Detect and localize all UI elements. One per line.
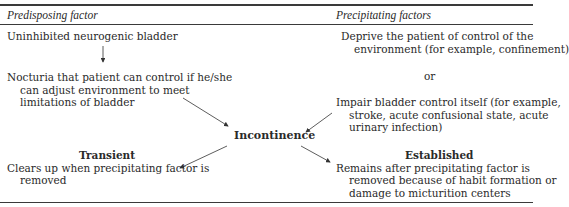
arrow-precipitating-to-incontinence xyxy=(306,113,332,132)
arrow-incontinence-to-established xyxy=(301,146,330,162)
arrow-incontinence-to-transient xyxy=(180,146,227,168)
arrow-predisposing-to-incontinence xyxy=(183,98,228,126)
